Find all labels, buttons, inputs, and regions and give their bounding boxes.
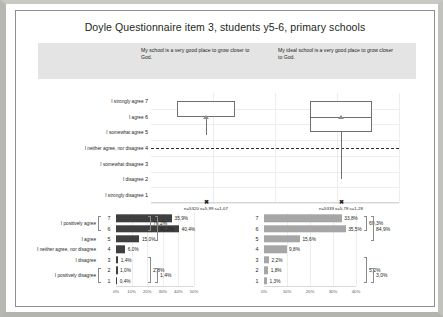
prompt-right: My ideal school is a very good place to … [278,47,396,62]
boxplot-right-mean-marker-icon [338,115,344,119]
bar-category-1: 1 [104,278,114,284]
bar-category-6: 6 [252,226,262,232]
category-label-4: I positively disagree [55,273,96,278]
boxplot-scale-label-text: I agree [129,115,145,120]
boxplot-scale-label-number: 5 [145,129,148,135]
bar-xtick-0: 0% [261,289,267,294]
bar-value-2: 1,8% [271,268,282,273]
bar-5 [264,235,300,242]
bar-category-3: 3 [252,257,262,263]
bar-xtick-1: 10% [283,289,292,294]
boxplot-panel: I strongly agree 7I agree 6I somewhat ag… [38,79,416,209]
chart-frame: Doyle Questionnaire item 3, students y5-… [15,10,435,307]
group-bracket-2 [148,257,151,283]
bar-xtick-2: 20% [143,289,152,294]
bar-1 [264,277,267,284]
bar-category-5: 5 [252,236,262,242]
boxplot-scale-label-2: I disagree 2 [123,176,148,182]
bar-category-3: 3 [104,257,114,263]
bar-category-6: 6 [104,226,114,232]
bar-value-6: 35,5% [348,226,362,231]
boxplot-scale-label-6: I agree 6 [129,114,148,120]
boxplot-scale-label-4: I neither agree, nor disagree 4 [85,145,148,151]
bar-6 [264,225,346,232]
bar-value-1: 1,3% [269,278,280,283]
group-bracket-2 [364,257,367,283]
bar-gridline [194,213,195,286]
boxplot-scale-label-1: I strongly disagree 1 [105,192,148,198]
boxplot-scale-label-number: 6 [145,114,148,120]
bar-value-7: 33,8% [344,216,358,221]
boxplot-scale-label-number: 2 [145,176,148,182]
bar-xtick-2: 20% [306,289,315,294]
bar-value-4: 6,0% [128,247,139,252]
category-bracket-4 [98,268,101,283]
boxplot-left-mark-glyph-icon: ✖ [196,199,216,205]
bar-category-2: 2 [104,267,114,273]
screenshot-root: Doyle Questionnaire item 3, students y5-… [0,0,443,317]
bar-xtick-3: 30% [329,289,338,294]
bar-value-3: 1,4% [121,257,132,262]
category-label-1: I agree [81,237,96,242]
boxplot-scale-label-text: I neither agree, nor disagree [85,146,145,151]
bar-xtick-1: 10% [127,289,136,294]
boxplot-right-mark-glyph-icon: ✖ [331,199,351,205]
group-bracket-0 [148,216,151,231]
boxplot-scale-label-number: 7 [145,98,148,104]
boxplot-scale-label-text: I somewhat agree [106,130,145,135]
group-value-3,0%: 3,0% [376,272,387,278]
bar-value-4: 9,8% [289,247,300,252]
bar-value-5: 15,6% [302,237,316,242]
category-label-2: I neither agree, nor disagree [37,247,96,252]
bar-1 [116,277,117,284]
boxplot-scale-label-number: 1 [145,192,148,198]
boxplot-right-whisker [341,132,342,179]
bar-3 [116,256,118,263]
bar-category-1: 1 [252,278,262,284]
bar-category-2: 2 [252,267,262,273]
bar-2 [116,266,118,273]
bar-category-7: 7 [252,215,262,221]
category-label-3: I disagree [75,257,96,262]
category-bracket-0 [98,216,101,231]
boxplot-scale-label-number: 3 [145,161,148,167]
boxplot-axis-line [151,202,399,203]
bar-category-7: 7 [104,215,114,221]
bar-5 [116,235,139,242]
page-title: Doyle Questionnaire item 3, students y5-… [16,21,434,33]
bar-xtick-4: 40% [352,289,361,294]
bar-gridline [356,213,357,286]
bar-category-4: 4 [252,246,262,252]
bar-value-5: 15,0% [142,237,156,242]
bar-7 [264,214,342,221]
prompt-left: My school is a very good place to grow c… [141,47,261,62]
boxplot-gridline [151,203,399,204]
boxplot-plot-area [151,93,399,203]
bar-xtick-0: 0% [113,289,119,294]
bar-value-1: 0,4% [120,278,131,283]
category-label-0: I positively agree [61,221,96,226]
bar-4 [116,246,125,253]
group-value-91,2%: 91,2% [160,226,174,232]
bar-x-axis [264,286,356,287]
bar-xtick-5: 50% [190,289,199,294]
boxplot-left-mean-marker-icon [203,115,209,119]
boxplot-scale-label-text: I disagree [123,177,145,182]
bar-category-5: 5 [104,236,114,242]
group-bracket-1 [371,216,374,242]
neutral-reference-line [151,148,399,149]
boxplot-scale-label-text: I somewhat disagree [100,162,145,167]
bar-4 [264,246,287,253]
group-bracket-1 [155,216,158,242]
bar-value-7: 35,9% [175,216,189,221]
boxplot-scale-label-3: I somewhat disagree 3 [100,161,148,167]
bar-2 [264,266,268,273]
bar-x-axis [116,286,194,287]
boxplot-scale-label-7: I strongly agree 7 [111,98,148,104]
boxplot-left-whisker [206,117,207,135]
bar-category-4: 4 [104,246,114,252]
group-bracket-3 [155,268,158,283]
left-distribution-chart: 0%10%20%30%40%50%735,9%640,4%515,0%46,0%… [38,211,236,311]
bar-value-3: 2,2% [272,257,283,262]
boxplot-vertical-gridline [399,93,400,203]
